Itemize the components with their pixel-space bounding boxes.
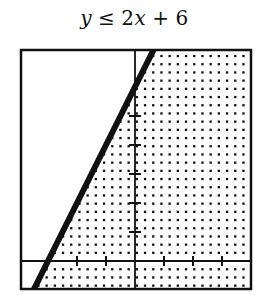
shaded-region <box>37 55 244 287</box>
tick-marks <box>77 116 222 266</box>
inequality-graph <box>0 0 269 303</box>
